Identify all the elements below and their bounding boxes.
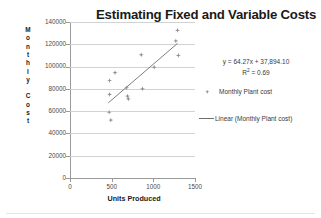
x-axis-tick-label: 500 (97, 183, 127, 190)
chart-container: Estimating Fixed and Variable Costs Mont… (0, 0, 321, 218)
y-axis-tick-label: 120000 (22, 41, 66, 47)
x-axis-tick-label: 0 (55, 183, 85, 190)
equation-line: y = 64.27x + 37,894.10 (197, 57, 315, 66)
plot-area (70, 22, 195, 178)
x-axis-tick-label: 1000 (138, 183, 168, 190)
legend-item-scatter[interactable]: Monthly Plant cost (205, 88, 317, 95)
line-swatch-icon (199, 118, 214, 119)
y-axis-tick-label: 80000 (22, 86, 66, 92)
chart-title: Estimating Fixed and Variable Costs (96, 7, 311, 22)
x-axis-tick (70, 178, 71, 182)
y-axis-tick-label: 40000 (22, 130, 66, 136)
gridline (70, 44, 195, 45)
gridline (70, 67, 195, 68)
y-axis-tick (66, 67, 70, 68)
legend-label-scatter: Monthly Plant cost (219, 88, 317, 95)
regression-equation-annotation: y = 64.27x + 37,894.10R2 = 0.69 (197, 57, 315, 77)
y-axis-tick-label: 0 (22, 175, 66, 181)
y-axis-tick-label: 60000 (22, 108, 66, 114)
gridline (70, 111, 195, 112)
gridline (70, 22, 195, 23)
gridline (70, 133, 195, 134)
gridline (70, 89, 195, 90)
y-axis-tick (66, 133, 70, 134)
y-axis-tick-label: 140000 (22, 19, 66, 25)
y-axis-tick (66, 22, 70, 23)
x-axis-tick (153, 178, 154, 182)
x-axis-tick (195, 178, 196, 182)
legend-label-trendline: Linear (Monthly Plant cost) (215, 114, 317, 124)
y-axis-tick-label: 100000 (22, 63, 66, 69)
gridline (70, 156, 195, 157)
y-axis-tick-labels: 020000400006000080000100000120000140000 (18, 0, 66, 190)
y-axis-tick (66, 44, 70, 45)
x-axis-tick (112, 178, 113, 182)
x-axis-title: Units Produced (78, 194, 190, 203)
legend-item-trendline[interactable]: Linear (Monthly Plant cost) (199, 114, 317, 124)
y-axis-tick-label: 20000 (22, 153, 66, 159)
x-axis-line (70, 178, 196, 179)
y-axis-tick (66, 156, 70, 157)
diamond-marker-icon (205, 90, 210, 95)
x-axis-tick-label: 1500 (180, 183, 210, 190)
r-squared-line: R2 = 0.69 (197, 66, 315, 77)
y-axis-tick (66, 111, 70, 112)
y-axis-tick (66, 89, 70, 90)
